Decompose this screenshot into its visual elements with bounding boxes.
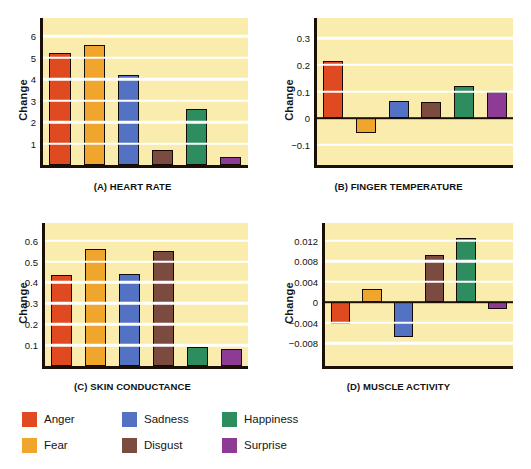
legend-swatch-icon (122, 412, 137, 427)
legend-item: Anger (22, 412, 122, 427)
y-tick-label: 0.2 (297, 59, 310, 70)
bar (488, 302, 507, 309)
bar (394, 302, 413, 337)
bar (356, 118, 376, 133)
bar (362, 289, 381, 302)
y-tick-label: 0.008 (294, 256, 318, 267)
y-tick-labels-a: 123456 (4, 18, 38, 165)
plot-area-d (322, 223, 513, 369)
panel-caption-a: (A) HEART RATE (0, 181, 265, 192)
chart-panel-a: Change 123456 (A) HEART RATE (0, 0, 265, 200)
gridline (43, 56, 248, 59)
bar (152, 150, 173, 165)
y-tick-label: 0.2 (25, 319, 38, 330)
y-tick-label: 0.3 (25, 298, 38, 309)
zero-line (317, 117, 513, 119)
bar (49, 53, 70, 165)
gridline (45, 302, 248, 305)
gridline (317, 144, 513, 147)
legend-item: Disgust (122, 438, 222, 453)
legend-swatch-icon (222, 412, 237, 427)
bar (84, 45, 105, 165)
y-tick-labels-c: 0.10.20.30.40.50.6 (6, 223, 40, 366)
y-tick-labels-d: −0.008−0.00400.0040.0080.012 (286, 223, 320, 366)
gridline (45, 344, 248, 347)
y-tick-label: 3 (31, 95, 36, 106)
y-tick-label: 0.6 (25, 235, 38, 246)
y-tick-label: 5 (31, 52, 36, 63)
legend-swatch-icon (122, 438, 137, 453)
gridline (325, 342, 513, 345)
panel-caption-c: (C) SKIN CONDUCTANCE (0, 381, 265, 392)
panel-caption-d: (D) MUSCLE ACTIVITY (266, 381, 531, 392)
y-tick-label: 0 (313, 297, 318, 308)
y-tick-label: 4 (31, 74, 36, 85)
legend-label: Surprise (244, 439, 287, 451)
gridline (325, 260, 513, 263)
gridline (325, 280, 513, 283)
bar (220, 157, 241, 165)
bar (487, 92, 507, 118)
legend-swatch-icon (22, 438, 37, 453)
legend-item: Fear (22, 438, 122, 453)
legend-label: Sadness (144, 413, 189, 425)
legend-item: Sadness (122, 412, 222, 427)
plot-area-c (42, 223, 248, 369)
gridline (317, 64, 513, 67)
bar (389, 101, 409, 118)
plot-area-b (314, 18, 513, 168)
y-tick-label: 0 (305, 113, 310, 124)
bar (186, 109, 207, 165)
bars-d (325, 223, 513, 366)
legend-item: Surprise (222, 438, 322, 453)
bar (51, 275, 72, 366)
panel-caption-b: (B) FINGER TEMPERATURE (266, 181, 531, 192)
y-tick-label: 0.4 (25, 277, 38, 288)
y-tick-label: 0.1 (297, 86, 310, 97)
legend-swatch-icon (22, 412, 37, 427)
bar (221, 349, 242, 366)
legend-swatch-icon (222, 438, 237, 453)
gridline (45, 323, 248, 326)
legend: AngerSadnessHappinessFearDisgustSurprise (22, 406, 322, 458)
legend-label: Disgust (144, 439, 182, 451)
y-tick-label: 2 (31, 117, 36, 128)
bar (85, 249, 106, 366)
chart-panel-c: Change 0.10.20.30.40.50.6 (C) SKIN CONDU… (0, 205, 265, 400)
y-tick-labels-b: −0.100.10.20.3 (278, 18, 312, 165)
y-tick-label: 1 (31, 138, 36, 149)
bar (456, 238, 475, 302)
y-tick-label: 0.004 (294, 276, 318, 287)
bar (119, 274, 140, 366)
y-tick-label: −0.008 (289, 338, 318, 349)
y-tick-label: −0.1 (291, 139, 310, 150)
legend-label: Anger (44, 413, 75, 425)
gridline (45, 260, 248, 263)
plot-area-a (40, 18, 248, 168)
gridline (45, 239, 248, 242)
y-tick-label: 0.3 (297, 33, 310, 44)
y-tick-label: 0.5 (25, 256, 38, 267)
gridline (325, 321, 513, 324)
gridline (317, 90, 513, 93)
gridline (325, 240, 513, 243)
legend-label: Fear (44, 439, 68, 451)
gridline (43, 78, 248, 81)
gridline (43, 121, 248, 124)
gridline (45, 281, 248, 284)
bar (153, 251, 174, 366)
legend-item: Happiness (222, 412, 322, 427)
zero-line (325, 301, 513, 303)
y-tick-label: 0.1 (25, 340, 38, 351)
y-tick-label: 6 (31, 31, 36, 42)
y-tick-label: 0.012 (294, 235, 318, 246)
gridline (43, 99, 248, 102)
legend-label: Happiness (244, 413, 298, 425)
figure-emotion-physiology: Change 123456 (A) HEART RATE Change −0.1… (0, 0, 531, 469)
bar (187, 347, 208, 366)
gridline (317, 37, 513, 40)
gridline (43, 142, 248, 145)
bar (421, 102, 441, 119)
chart-panel-d: Change −0.008−0.00400.0040.0080.012 (D) … (266, 205, 531, 400)
chart-panel-b: Change −0.100.10.20.3 (B) FINGER TEMPERA… (266, 0, 531, 200)
